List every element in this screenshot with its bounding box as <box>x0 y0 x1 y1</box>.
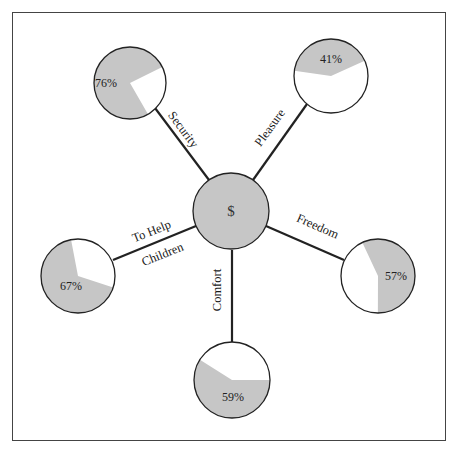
category-label-comfort: Comfort <box>210 268 224 311</box>
pie-security: 76% <box>94 47 166 119</box>
percent-label-pleasure: 41% <box>320 52 342 66</box>
percent-label-children: 67% <box>60 279 82 293</box>
pie-freedom: 57% <box>341 239 415 313</box>
category-label-pleasure: Pleasure <box>252 106 288 149</box>
category-label-freedom: Freedom <box>294 211 341 242</box>
pie-pleasure: 41% <box>294 39 368 113</box>
money-motivation-diagram: 76%41%57%59%67% $ SecurityPleasureFreedo… <box>0 0 455 449</box>
dollar-sign-label: $ <box>227 203 235 219</box>
percent-label-comfort: 59% <box>222 390 244 404</box>
center-node: $ <box>193 173 269 249</box>
pie-comfort: 59% <box>194 342 270 418</box>
pie-children: 67% <box>41 239 115 313</box>
category-label-children-line1: To Help <box>130 217 173 245</box>
percent-label-freedom: 57% <box>385 269 407 283</box>
percent-label-security: 76% <box>95 76 117 90</box>
category-label-children-line2: Children <box>140 239 186 269</box>
